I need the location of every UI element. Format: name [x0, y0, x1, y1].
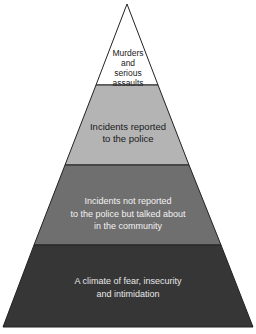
label-line: serious — [0, 68, 256, 78]
level-4-label: A climate of fear, insecurity and intimi… — [0, 275, 256, 301]
level-1-label: Murders and serious assaults — [0, 48, 256, 88]
label-line: A climate of fear, insecurity — [0, 275, 256, 288]
label-line: Murders — [0, 48, 256, 58]
label-line: and intimidation — [0, 288, 256, 301]
label-line: to the police but talked about — [0, 208, 256, 221]
label-line: in the community — [0, 220, 256, 233]
label-line: to the police — [0, 133, 256, 145]
label-line: Incidents not reported — [0, 195, 256, 208]
label-line: assaults — [0, 78, 256, 88]
label-line: Incidents reported — [0, 121, 256, 133]
level-2-label: Incidents reported to the police — [0, 121, 256, 145]
level-3-label: Incidents not reported to the police but… — [0, 195, 256, 233]
label-line: and — [0, 58, 256, 68]
